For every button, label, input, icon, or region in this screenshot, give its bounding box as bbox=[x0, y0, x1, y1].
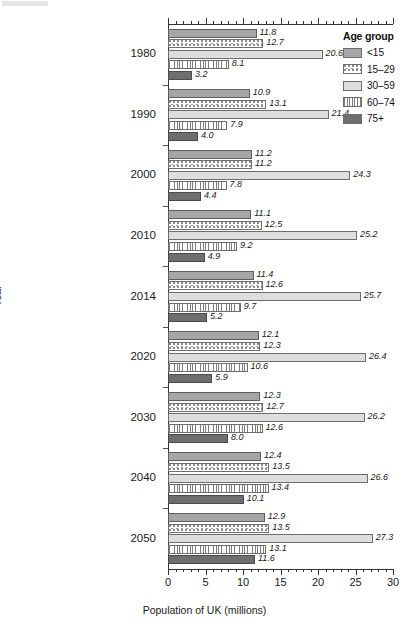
bar-value-label: 4.4 bbox=[204, 190, 217, 200]
bar-1980-a15_29[interactable] bbox=[168, 39, 263, 48]
bar-value-label: 11.4 bbox=[257, 269, 274, 279]
legend-label: 75+ bbox=[367, 113, 384, 124]
bar-value-label: 11.1 bbox=[254, 208, 271, 218]
x-tick-minor bbox=[251, 569, 252, 572]
bar-2050-lt15[interactable] bbox=[168, 513, 265, 522]
legend-item-a15_29[interactable]: 15–29 bbox=[343, 63, 409, 76]
bar-1990-a60_74[interactable] bbox=[168, 121, 227, 130]
bar-2014-a60_74[interactable] bbox=[168, 303, 241, 312]
bar-2010-a60_74[interactable] bbox=[168, 242, 237, 251]
bar-2040-a15_29[interactable] bbox=[168, 463, 269, 472]
bar-2014-a15_29[interactable] bbox=[168, 281, 263, 290]
x-tick-label: 20 bbox=[312, 576, 324, 588]
bar-2020-lt15[interactable] bbox=[168, 331, 259, 340]
y-tick-label-2020: 2020 bbox=[106, 350, 156, 362]
bar-2000-lt15[interactable] bbox=[168, 150, 252, 159]
bar-2010-a75plus[interactable] bbox=[168, 253, 205, 262]
x-tick-minor bbox=[183, 569, 184, 572]
bar-value-label: 12.4 bbox=[264, 450, 282, 460]
bar-1990-a15_29[interactable] bbox=[168, 100, 266, 109]
bar-row: 8.0 bbox=[168, 434, 409, 443]
bar-row: 26.4 bbox=[168, 353, 409, 362]
bar-2014-a75plus[interactable] bbox=[168, 313, 207, 322]
bar-2030-a75plus[interactable] bbox=[168, 434, 228, 443]
top-tick-minor bbox=[198, 21, 199, 24]
top-tick-minor bbox=[213, 21, 214, 24]
bar-1990-a75plus[interactable] bbox=[168, 132, 198, 141]
bar-row: 13.1 bbox=[168, 545, 409, 554]
bar-2020-a60_74[interactable] bbox=[168, 363, 248, 372]
legend-item-a75plus[interactable]: 75+ bbox=[343, 112, 409, 125]
x-tick-major bbox=[356, 569, 357, 575]
x-tick-minor bbox=[303, 569, 304, 572]
top-tick-minor bbox=[326, 21, 327, 24]
bar-2030-a15_29[interactable] bbox=[168, 403, 263, 412]
bar-2000-a30_59[interactable] bbox=[168, 171, 350, 180]
bar-value-label: 27.3 bbox=[376, 532, 394, 542]
bar-2010-lt15[interactable] bbox=[168, 210, 251, 219]
bar-value-label: 11.6 bbox=[258, 553, 275, 563]
bar-row: 5.2 bbox=[168, 313, 409, 322]
legend-item-a30_59[interactable]: 30–59 bbox=[343, 79, 409, 92]
legend: Age group <1515–2930–5960–7475+ bbox=[343, 30, 409, 129]
bar-2030-lt15[interactable] bbox=[168, 392, 260, 401]
top-tick-minor bbox=[228, 21, 229, 24]
y-tick-label-2010: 2010 bbox=[106, 229, 156, 241]
bar-2040-lt15[interactable] bbox=[168, 452, 261, 461]
top-tick-minor bbox=[266, 21, 267, 24]
bar-value-label: 12.6 bbox=[266, 422, 284, 432]
bar-value-label: 20.6 bbox=[326, 48, 344, 58]
legend-item-lt15[interactable]: <15 bbox=[343, 46, 409, 59]
y-tick-label-2000: 2000 bbox=[106, 168, 156, 180]
top-tick-minor bbox=[386, 21, 387, 24]
y-tick-label-2030: 2030 bbox=[106, 411, 156, 423]
bar-row: 12.3 bbox=[168, 392, 409, 401]
bar-2050-a60_74[interactable] bbox=[168, 545, 266, 554]
y-axis-title: Year bbox=[0, 285, 3, 306]
bar-row: 11.2 bbox=[168, 160, 409, 169]
bar-1990-lt15[interactable] bbox=[168, 89, 250, 98]
bar-value-label: 13.1 bbox=[269, 543, 287, 553]
bar-2014-a30_59[interactable] bbox=[168, 292, 361, 301]
bar-value-label: 10.1 bbox=[247, 493, 265, 503]
top-tick-minor bbox=[251, 21, 252, 24]
bar-2010-a30_59[interactable] bbox=[168, 231, 357, 240]
bar-2000-a60_74[interactable] bbox=[168, 181, 227, 190]
x-tick-minor bbox=[326, 569, 327, 572]
bar-2040-a75plus[interactable] bbox=[168, 495, 244, 504]
bar-value-label: 13.5 bbox=[272, 461, 290, 471]
bar-1980-a75plus[interactable] bbox=[168, 71, 192, 80]
bar-row: 25.2 bbox=[168, 231, 409, 240]
bar-2040-a30_59[interactable] bbox=[168, 474, 368, 483]
bar-2010-a15_29[interactable] bbox=[168, 221, 262, 230]
legend-item-a60_74[interactable]: 60–74 bbox=[343, 96, 409, 109]
x-tick-minor bbox=[221, 569, 222, 572]
bar-2020-a15_29[interactable] bbox=[168, 342, 260, 351]
y-tick-label-2050: 2050 bbox=[106, 532, 156, 544]
bar-2000-a75plus[interactable] bbox=[168, 192, 201, 201]
legend-swatch-icon bbox=[343, 48, 362, 58]
bar-1980-lt15[interactable] bbox=[168, 29, 257, 38]
bar-2050-a15_29[interactable] bbox=[168, 524, 269, 533]
bar-1980-a30_59[interactable] bbox=[168, 50, 323, 59]
top-tick-minor bbox=[363, 21, 364, 24]
top-tick-minor bbox=[191, 21, 192, 24]
bar-2050-a75plus[interactable] bbox=[168, 555, 255, 564]
bar-2030-a60_74[interactable] bbox=[168, 424, 263, 433]
bar-value-label: 13.4 bbox=[272, 482, 290, 492]
x-tick-minor bbox=[258, 569, 259, 572]
bar-value-label: 26.2 bbox=[368, 411, 386, 421]
y-group-tick bbox=[163, 206, 168, 207]
bar-2014-lt15[interactable] bbox=[168, 271, 254, 280]
bar-1990-a30_59[interactable] bbox=[168, 110, 329, 119]
legend-swatch-icon bbox=[343, 81, 362, 91]
bar-2000-a15_29[interactable] bbox=[168, 160, 252, 169]
x-tick-major bbox=[393, 569, 394, 575]
top-tick-minor bbox=[378, 21, 379, 24]
bar-row: 4.4 bbox=[168, 192, 409, 201]
bar-value-label: 12.3 bbox=[263, 390, 281, 400]
x-tick-minor bbox=[288, 569, 289, 572]
x-tick-minor bbox=[371, 569, 372, 572]
bar-value-label: 11.2 bbox=[255, 148, 272, 158]
bar-2020-a75plus[interactable] bbox=[168, 374, 212, 383]
